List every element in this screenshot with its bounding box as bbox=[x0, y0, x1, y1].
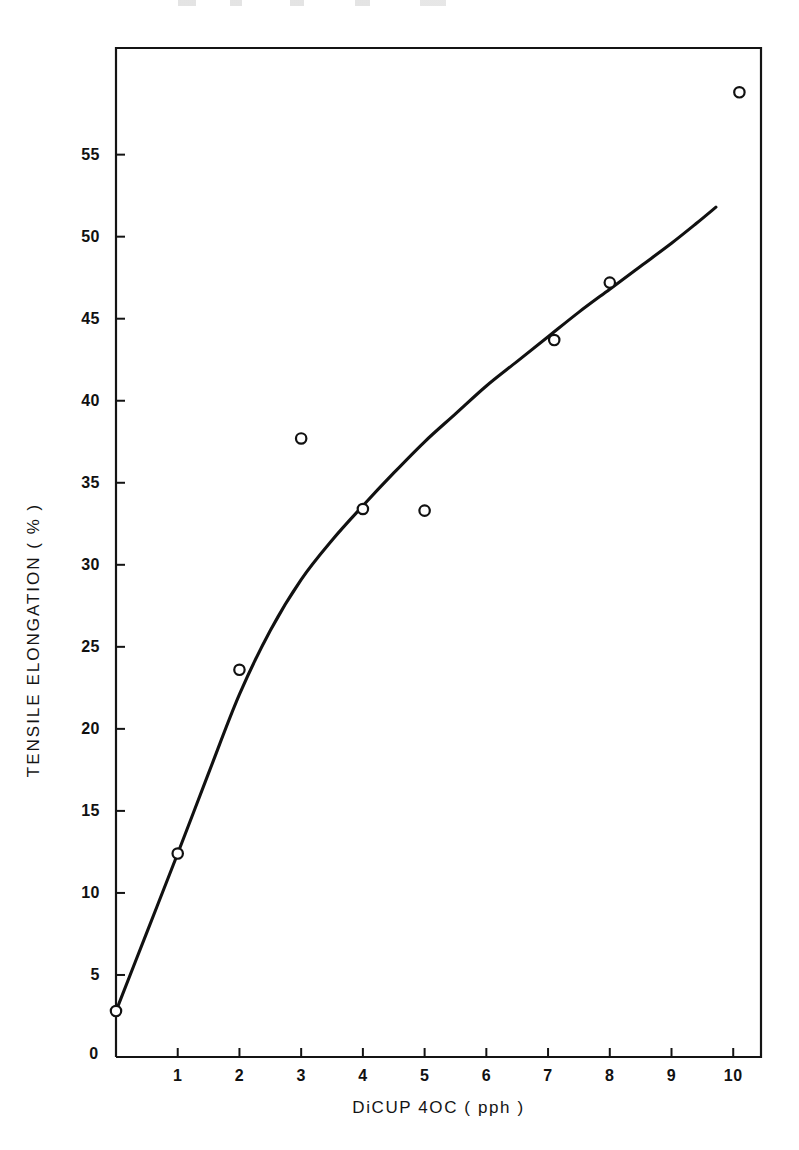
fitted-curve bbox=[116, 207, 716, 1011]
data-point-marker bbox=[358, 504, 368, 514]
plot-area bbox=[0, 0, 799, 1150]
data-point-marker bbox=[605, 277, 615, 287]
chart-figure: TENSILE ELONGATION ( % ) DiCUP 4OC ( pph… bbox=[0, 0, 799, 1150]
data-point-marker bbox=[734, 87, 744, 97]
data-point-marker bbox=[419, 505, 429, 515]
data-point-marker bbox=[549, 335, 559, 345]
data-point-marker bbox=[173, 848, 183, 858]
axes-frame bbox=[116, 48, 761, 1057]
data-points bbox=[111, 87, 745, 1016]
axis-ticks bbox=[116, 155, 733, 1057]
curve-path bbox=[116, 207, 716, 1011]
data-point-marker bbox=[111, 1006, 121, 1016]
data-point-marker bbox=[234, 665, 244, 675]
data-point-marker bbox=[296, 433, 306, 443]
axes-border bbox=[116, 48, 761, 1057]
